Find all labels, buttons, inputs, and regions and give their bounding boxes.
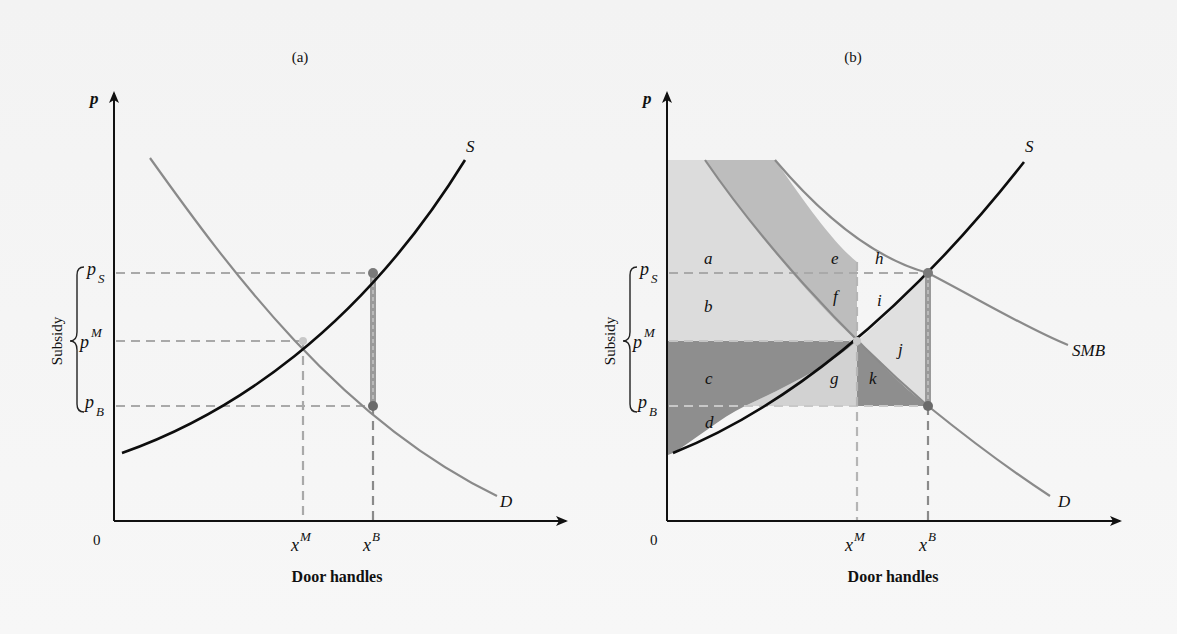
panel-a-origin-label: 0 [93, 532, 101, 548]
panel-a-guides [116, 273, 373, 520]
panel-b-pb-label: p B [636, 392, 657, 419]
panel-a: (a) p 0 S D p S p [49, 49, 566, 585]
panel-b-y-axis-label: p [641, 89, 652, 108]
panel-a-pb-label: p B [83, 392, 104, 419]
area-label-g: g [830, 369, 839, 388]
svg-text:x: x [918, 535, 927, 555]
svg-text:S: S [98, 271, 105, 286]
panel-b-subsidy-label: Subsidy [602, 316, 618, 365]
svg-text:p: p [636, 392, 647, 412]
panel-a-pb-dot [368, 401, 378, 411]
svg-text:p: p [85, 259, 96, 279]
svg-text:x: x [362, 535, 371, 555]
svg-text:M: M [90, 325, 103, 340]
svg-text:B: B [928, 529, 936, 544]
svg-text:M: M [853, 529, 866, 544]
panel-b-ps-dot [923, 268, 933, 278]
panel-b-smb-label: SMB [1072, 341, 1106, 360]
panel-a-ps-dot [368, 268, 378, 278]
panel-a-equilibrium-dot [299, 337, 307, 345]
area-label-k: k [869, 369, 877, 388]
panel-b-xb-label: x B [918, 529, 936, 555]
svg-text:S: S [651, 271, 658, 286]
panel-b-pm-label: p M [631, 325, 656, 352]
panel-a-x-axis-label: Door handles [292, 568, 383, 585]
panel-b-demand-label: D [1057, 492, 1071, 511]
panel-a-xm-label: x M [290, 529, 312, 555]
svg-text:M: M [299, 529, 312, 544]
panel-a-ps-label: p S [85, 259, 105, 286]
area-label-h: h [875, 249, 884, 268]
area-label-i: i [877, 291, 882, 310]
panel-b: (b) [602, 49, 1120, 585]
panel-a-xb-label: x B [362, 529, 380, 555]
area-label-j: j [896, 340, 903, 359]
figure: (a) p 0 S D p S p [0, 0, 1177, 634]
panel-a-demand-curve [150, 158, 497, 496]
panel-b-supply-label: S [1025, 137, 1034, 156]
panel-b-xm-label: x M [844, 529, 866, 555]
area-label-b: b [704, 297, 713, 316]
svg-text:p: p [78, 332, 89, 352]
panel-a-subsidy-label: Subsidy [49, 316, 65, 365]
panel-a-supply-curve [122, 160, 465, 453]
svg-text:p: p [638, 259, 649, 279]
panel-b-pb-dot [923, 401, 933, 411]
panel-b-ps-label: p S [638, 259, 658, 286]
svg-text:M: M [643, 325, 656, 340]
panel-a-supply-label: S [466, 137, 475, 156]
svg-text:x: x [844, 535, 853, 555]
area-label-e: e [831, 249, 839, 268]
panel-a-demand-label: D [499, 492, 513, 511]
panel-a-title: (a) [292, 49, 309, 66]
area-label-a: a [704, 249, 713, 268]
panel-a-pm-label: p M [78, 325, 103, 352]
svg-text:p: p [631, 332, 642, 352]
svg-text:B: B [649, 404, 657, 419]
svg-text:B: B [372, 529, 380, 544]
area-label-c: c [705, 369, 713, 388]
panel-b-equilibrium-dot [853, 337, 861, 345]
panel-b-origin-label: 0 [650, 532, 658, 548]
svg-text:B: B [96, 404, 104, 419]
panel-b-title: (b) [844, 49, 862, 66]
svg-text:p: p [83, 392, 94, 412]
area-label-d: d [705, 413, 714, 432]
svg-text:x: x [290, 535, 299, 555]
panel-a-y-axis-label: p [88, 89, 99, 108]
panel-b-x-axis-label: Door handles [848, 568, 939, 585]
